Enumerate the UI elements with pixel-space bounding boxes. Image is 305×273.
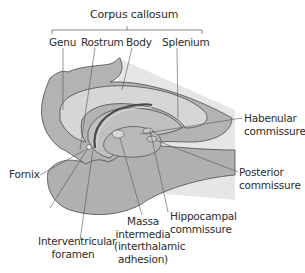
- label-fornix: Fornix: [9, 168, 40, 181]
- label-rostrum: Rostrum: [81, 36, 124, 49]
- label-hippocampal-commissure: Hippocampal commissure: [170, 210, 237, 235]
- label-interventricular-foramen: Interventricular foramen: [38, 235, 108, 260]
- label-habenular-commissure: Habenular commissure: [244, 112, 305, 137]
- label-massa-intermedia: Massa intermedia (interthalamic adhesion…: [114, 215, 172, 265]
- label-genu: Genu: [49, 36, 76, 49]
- label-body: Body: [126, 36, 152, 49]
- corpus-callosum-bracket: [52, 26, 202, 34]
- label-corpus-callosum: Corpus callosum: [90, 9, 178, 22]
- label-splenium: Splenium: [162, 36, 210, 49]
- massa-intermedia: [112, 130, 124, 138]
- label-posterior-commissure: Posterior commissure: [239, 166, 301, 191]
